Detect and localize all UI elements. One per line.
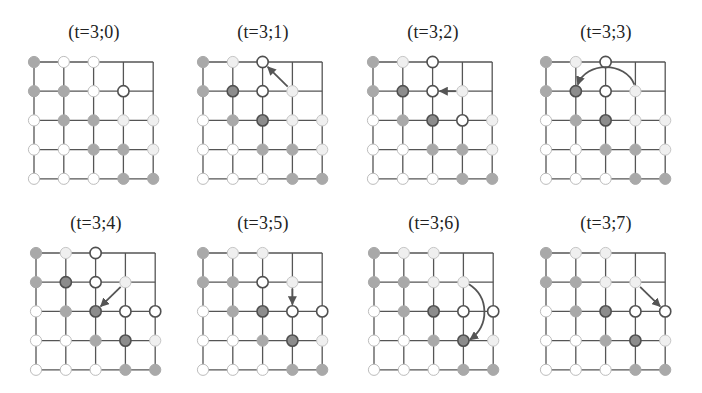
node-gray [197,56,208,67]
node-gray [227,115,238,126]
node-light [287,277,298,288]
node-light [150,335,161,346]
node-white [368,335,379,346]
node-gray [540,277,551,288]
node-bold [317,306,328,317]
node-gray [540,56,551,67]
node-dark [570,86,581,97]
node-white [58,144,69,155]
grid-diagram [348,0,518,190]
node-white [570,173,581,184]
node-light [317,144,328,155]
node-gray [540,247,551,258]
node-gray [540,86,551,97]
node-dark [257,115,268,126]
node-gray [600,335,611,346]
node-gray [570,277,581,288]
node-dark [90,306,101,317]
node-gray [90,335,101,346]
node-white [397,173,408,184]
panel-t3-7: (t=3;7) [521,191,691,381]
node-gray [287,364,298,375]
move-arrow-icon [640,287,660,307]
node-gray [120,364,131,375]
node-gray [60,306,71,317]
node-white [227,335,238,346]
grid-diagram [521,0,691,190]
node-bold [257,277,268,288]
node-gray [367,56,378,67]
node-white [540,306,551,317]
node-white [368,364,379,375]
panel-t3-5: (t=3;5) [178,191,348,381]
node-white [197,144,208,155]
node-bold [150,306,161,317]
node-light [428,247,439,258]
node-light [630,277,641,288]
node-white [397,144,408,155]
node-gray [630,173,641,184]
node-light [287,115,298,126]
node-white [398,364,409,375]
node-light [257,247,268,258]
node-white [197,335,208,346]
node-white [540,335,551,346]
node-dark [227,86,238,97]
node-white [540,364,551,375]
node-light [600,277,611,288]
node-white [60,335,71,346]
node-gray [458,364,469,375]
grid-diagram [521,191,691,381]
panel-t3-3: (t=3;3) [521,0,691,190]
node-bold [488,306,499,317]
node-bold [458,306,469,317]
node-bold [118,86,129,97]
node-gray [398,277,409,288]
node-gray [30,247,41,258]
panel-t3-1: (t=3;1) [178,0,348,190]
node-light [428,277,439,288]
grid-diagram [9,0,179,190]
node-light [287,86,298,97]
node-gray [660,364,671,375]
node-dark [287,335,298,346]
node-white [58,56,69,67]
node-light [630,115,641,126]
panel-t3-6: (t=3;6) [349,191,519,381]
node-gray [600,144,611,155]
node-gray [287,173,298,184]
node-bold [257,56,268,67]
node-white [60,364,71,375]
node-white [197,306,208,317]
node-light [660,115,671,126]
node-white [58,173,69,184]
grid-diagram [349,191,519,381]
node-bold [90,247,101,258]
node-gray [368,277,379,288]
node-gray [630,364,641,375]
node-light [487,144,498,155]
node-white [600,364,611,375]
node-dark [600,306,611,317]
node-white [257,364,268,375]
node-white [227,173,238,184]
node-gray [118,144,129,155]
node-white [570,335,581,346]
node-light [397,56,408,67]
node-bold [287,306,298,317]
node-white [197,115,208,126]
node-white [600,173,611,184]
node-gray [197,247,208,258]
node-light [118,115,129,126]
node-light [227,247,238,258]
grid-diagram [178,191,348,381]
node-light [148,115,159,126]
node-gray [58,115,69,126]
node-bold [457,115,468,126]
node-bold [600,86,611,97]
node-bold [257,86,268,97]
node-white [428,364,439,375]
node-light [227,56,238,67]
node-dark [458,335,469,346]
node-light [660,335,671,346]
